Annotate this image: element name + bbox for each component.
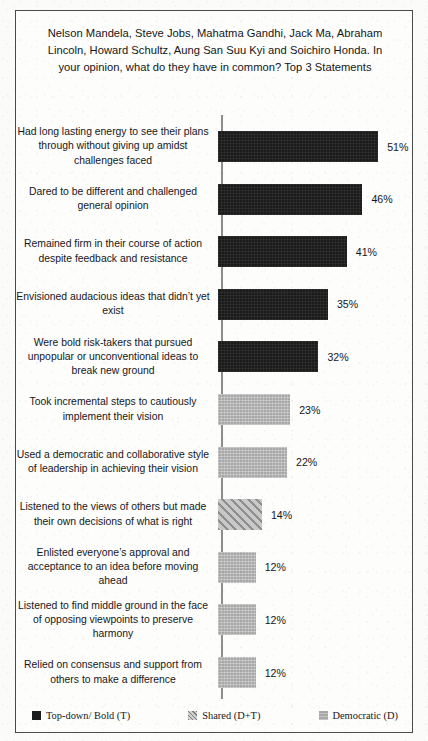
plot-area: Had long lasting energy to see their pla… bbox=[16, 115, 412, 699]
legend-item-topdown: Top-down/ Bold (T) bbox=[32, 710, 130, 721]
bar-track: 32% bbox=[216, 330, 412, 383]
chart-bar: 51% bbox=[218, 131, 378, 162]
chart-bar: 22% bbox=[218, 447, 287, 478]
bar-category-label: Dared to be different and challenged gen… bbox=[16, 185, 216, 213]
chart-bar: 12% bbox=[218, 552, 256, 583]
chart-bar-row: Dared to be different and challenged gen… bbox=[16, 173, 412, 226]
chart-bar-row: Had long lasting energy to see their pla… bbox=[16, 120, 412, 173]
chart-legend: Top-down/ Bold (T)Shared (D+T)Democratic… bbox=[32, 710, 398, 721]
chart-bar: 35% bbox=[218, 289, 328, 320]
bar-track: 14% bbox=[216, 488, 412, 541]
chart-bar-row: Took incremental steps to cautiously imp… bbox=[16, 383, 412, 436]
bar-category-label: Used a democratic and collaborative styl… bbox=[16, 448, 216, 476]
bar-track: 23% bbox=[216, 383, 412, 436]
bar-category-label: Envisioned audacious ideas that didn’t y… bbox=[16, 290, 216, 318]
chart-bar-row: Were bold risk-takers that pursued unpop… bbox=[16, 330, 412, 383]
legend-swatch-icon bbox=[188, 711, 197, 720]
bar-value-label: 46% bbox=[371, 193, 392, 205]
chart-bar: 12% bbox=[218, 604, 256, 635]
chart-bar: 23% bbox=[218, 394, 290, 425]
chart-bar-row: Relied on consensus and support from oth… bbox=[16, 646, 412, 699]
chart-bar-row: Listened to the views of others but made… bbox=[16, 488, 412, 541]
bar-track: 12% bbox=[216, 593, 412, 646]
chart-bar-row: Envisioned audacious ideas that didn’t y… bbox=[16, 278, 412, 331]
bar-value-label: 35% bbox=[337, 298, 358, 310]
bar-category-label: Listened to the views of others but made… bbox=[16, 500, 216, 528]
bar-value-label: 23% bbox=[299, 404, 320, 416]
bar-value-label: 22% bbox=[296, 456, 317, 468]
legend-label: Democratic (D) bbox=[333, 710, 398, 721]
bar-category-label: Took incremental steps to cautiously imp… bbox=[16, 395, 216, 423]
chart-bar-row: Used a democratic and collaborative styl… bbox=[16, 436, 412, 489]
bar-value-label: 12% bbox=[265, 614, 286, 626]
chart-bar: 14% bbox=[218, 499, 262, 530]
legend-label: Top-down/ Bold (T) bbox=[46, 710, 130, 721]
legend-swatch-icon bbox=[32, 711, 41, 720]
bar-value-label: 41% bbox=[356, 246, 377, 258]
chart-bar: 46% bbox=[218, 184, 362, 215]
bar-value-label: 14% bbox=[271, 509, 292, 521]
bar-category-label: Remained firm in their course of action … bbox=[16, 237, 216, 265]
bar-category-label: Were bold risk-takers that pursued unpop… bbox=[16, 336, 216, 379]
bar-category-label: Enlisted everyone’s approval and accepta… bbox=[16, 546, 216, 589]
bar-track: 41% bbox=[216, 225, 412, 278]
chart-title: Nelson Mandela, Steve Jobs, Mahatma Gand… bbox=[42, 25, 388, 76]
bar-track: 46% bbox=[216, 173, 412, 226]
legend-swatch-icon bbox=[319, 711, 328, 720]
bar-track: 51% bbox=[216, 120, 412, 173]
legend-item-shared: Shared (D+T) bbox=[188, 710, 260, 721]
bar-track: 35% bbox=[216, 278, 412, 331]
bar-value-label: 32% bbox=[327, 351, 348, 363]
chart-bar-row: Enlisted everyone’s approval and accepta… bbox=[16, 541, 412, 594]
chart-bar: 32% bbox=[218, 341, 318, 372]
bar-track: 22% bbox=[216, 436, 412, 489]
chart-bar-row: Remained firm in their course of action … bbox=[16, 225, 412, 278]
chart-bar: 41% bbox=[218, 236, 347, 267]
bar-category-label: Had long lasting energy to see their pla… bbox=[16, 125, 216, 168]
bar-category-label: Listened to find middle ground in the fa… bbox=[16, 599, 216, 642]
bar-track: 12% bbox=[216, 646, 412, 699]
legend-item-democratic: Democratic (D) bbox=[319, 710, 398, 721]
bar-value-label: 12% bbox=[265, 667, 286, 679]
bar-category-label: Relied on consensus and support from oth… bbox=[16, 658, 216, 686]
legend-label: Shared (D+T) bbox=[202, 710, 260, 721]
chart-bar: 12% bbox=[218, 657, 256, 688]
chart-frame: Nelson Mandela, Steve Jobs, Mahatma Gand… bbox=[15, 10, 413, 733]
bar-track: 12% bbox=[216, 541, 412, 594]
bar-value-label: 12% bbox=[265, 561, 286, 573]
bar-value-label: 51% bbox=[387, 141, 408, 153]
chart-bar-row: Listened to find middle ground in the fa… bbox=[16, 593, 412, 646]
